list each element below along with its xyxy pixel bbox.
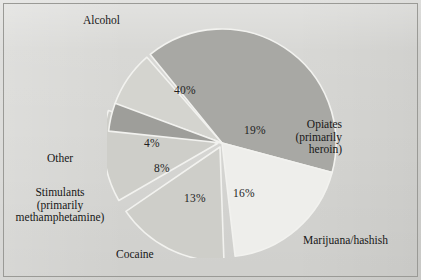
category-label: Marijuana/hashish [303, 234, 388, 247]
slice-percentage-label: 13% [184, 192, 206, 204]
category-label: Stimulants (primarily methamphetamine) [16, 186, 105, 224]
category-label: Other [47, 152, 73, 165]
category-label: Opiates (primarily heroin) [295, 118, 342, 156]
slice-percentage-label: 40% [174, 84, 196, 96]
slice-percentage-label: 4% [144, 137, 160, 149]
category-label: Alcohol [83, 14, 120, 27]
slice-percentage-label: 8% [154, 162, 170, 174]
category-label: Cocaine [116, 248, 154, 261]
slice-percentage-label: 19% [244, 124, 266, 136]
slice-percentage-label: 16% [233, 187, 255, 199]
pie-chart-figure: 40%19%16%13%8%4% AlcoholOpiates (primari… [0, 0, 421, 280]
